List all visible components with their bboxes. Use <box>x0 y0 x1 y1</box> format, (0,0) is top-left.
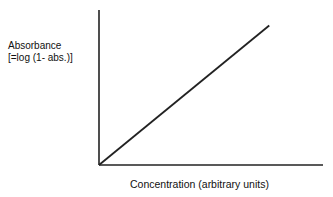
y-axis-label: Absorbance [=log (1- abs.)] <box>8 40 73 64</box>
y-axis-label-line2: [=log (1- abs.)] <box>8 52 73 64</box>
chart-plot-area <box>0 0 333 197</box>
data-line <box>99 26 269 166</box>
y-axis-label-line1: Absorbance <box>8 40 73 52</box>
x-axis-label: Concentration (arbitrary units) <box>130 178 269 190</box>
